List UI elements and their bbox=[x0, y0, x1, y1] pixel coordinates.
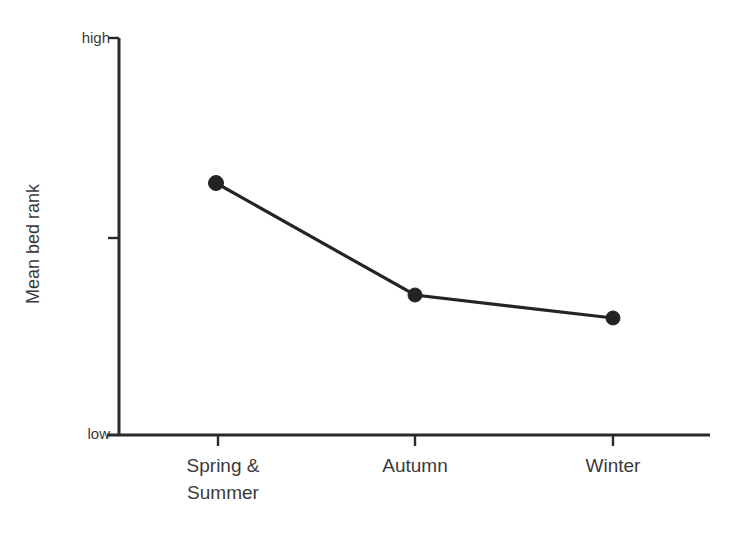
y-axis-title: Mean bed rank bbox=[23, 144, 43, 344]
data-point-winter bbox=[606, 311, 620, 325]
x-axis-label-autumn: Autumn bbox=[315, 452, 515, 479]
chart-figure: high low Mean bed rank Spring & Summer A… bbox=[0, 0, 735, 542]
x-axis-label-winter: Winter bbox=[513, 452, 713, 479]
y-axis-label-low: low bbox=[0, 425, 110, 442]
data-point-spring-summer bbox=[209, 176, 224, 191]
y-axis-label-high: high bbox=[0, 29, 110, 46]
data-point-autumn bbox=[408, 288, 422, 302]
x-axis-label-spring-summer: Spring & Summer bbox=[123, 452, 323, 506]
